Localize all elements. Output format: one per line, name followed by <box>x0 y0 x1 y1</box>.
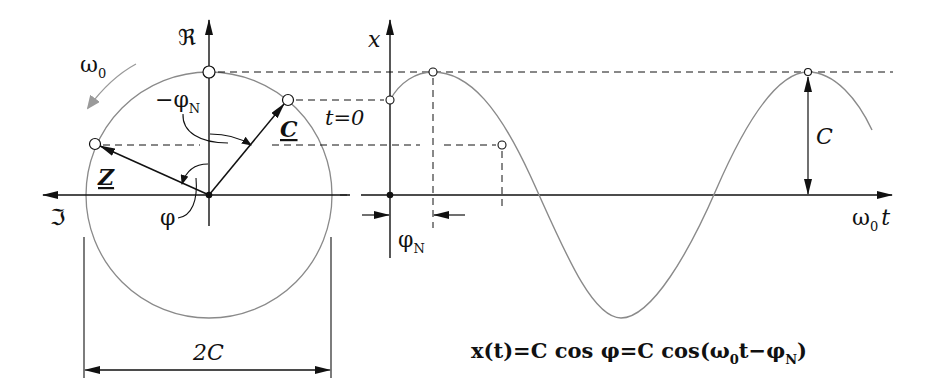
phase-shift-label: φN <box>398 227 425 256</box>
diameter-label: 2C <box>192 340 224 365</box>
leader-phiN <box>183 114 228 143</box>
value-axis-label: x <box>368 27 381 52</box>
projection-lines <box>103 72 893 228</box>
phasor-C-label: C <box>280 116 298 142</box>
real-axis-label: ℜ <box>178 25 196 50</box>
phasor-C-arrow <box>209 104 284 195</box>
time-plot: x t=0 C φN ω0t <box>325 20 892 318</box>
curve-point-Z <box>498 141 506 149</box>
point-top <box>203 66 215 78</box>
curve-point-t0 <box>386 96 394 104</box>
phasor-panel: ℜ ℑ ω0 −φN C Z φ 2C <box>43 20 350 378</box>
point-C <box>283 95 294 106</box>
phasor-diagram: ℜ ℑ ω0 −φN C Z φ 2C <box>0 0 930 392</box>
curve-point-peak2 <box>805 69 812 76</box>
amplitude-label: C <box>816 124 833 149</box>
imag-axis-label: ℑ <box>50 205 65 230</box>
origin-dot <box>206 192 213 199</box>
time-axis-label: ω0t <box>852 205 890 234</box>
phasor-Z-label: Z <box>97 164 115 190</box>
angle-phi-label: φ <box>160 205 175 230</box>
rotation-label: ω0 <box>80 52 106 81</box>
t0-label: t=0 <box>325 106 364 130</box>
formula: x(t)=C cos φ=C cos(ω0t−φN) <box>471 338 807 367</box>
point-Z <box>90 139 101 150</box>
leader-phi <box>178 178 196 218</box>
curve-point-peak <box>429 68 437 76</box>
time-origin-dot <box>387 192 394 199</box>
angle-arc-phi <box>182 164 208 184</box>
angle-phiN-label: −φN <box>155 87 200 116</box>
phasor-Z-arrow <box>100 146 209 195</box>
angle-arc-phiN <box>210 134 251 145</box>
